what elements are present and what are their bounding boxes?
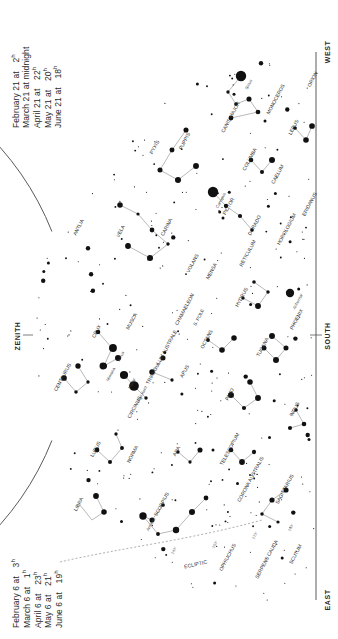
constellation-label: PUPPIS [177,131,191,151]
star-dot [244,374,248,378]
star-dot [288,196,289,197]
constellation-label: SCUTUM [288,543,303,565]
star-dot [197,410,198,411]
star-dot [191,583,192,584]
asterism-star-dot [238,73,244,79]
star-dot [201,411,202,412]
star-dot [154,468,155,469]
star-dot [206,509,207,510]
star-dot [156,213,157,214]
star-dot [107,323,109,325]
star-dot [307,88,308,89]
star-dot [68,232,69,233]
constellation-label: SAGITTARIUS [274,473,295,506]
star-dot [211,390,212,391]
legend-bottom-spacer [54,583,64,592]
legend-top-spacer [32,80,42,89]
asterism-star-dot [283,345,288,350]
star-dot [98,470,100,472]
star-dot [213,582,216,585]
star-dot [307,284,308,285]
star-dot [221,252,222,253]
star-dot [99,318,100,319]
star-dot [311,375,312,376]
asterism-star-dot [226,90,229,93]
star-dot [284,583,285,584]
star-dot [228,373,229,374]
star-dot [37,318,38,319]
star-dot [267,199,268,200]
star-dot [268,95,270,97]
star-dot [229,75,231,77]
star-dot [164,103,165,104]
asterism-star-dot [266,290,269,293]
star-dot [250,512,251,513]
constellation-label: MENSA [204,261,218,280]
compass-south-label: SOUTH [324,322,331,350]
star-dot [221,207,222,208]
star-dot [196,83,199,86]
star-dot [269,464,270,465]
star-dot [172,312,173,313]
constellation-label: MUSCA [124,311,138,330]
constellation-line [178,450,200,462]
constellation-label: NORMA [125,444,139,464]
star-dot [120,520,123,523]
legend-top-date: April 21 at [32,89,42,128]
asterism-star-dot [242,406,246,410]
asterism-star-dot [276,520,279,523]
constellation-line [160,130,196,180]
constellation-line [295,126,312,140]
star-dot [276,249,277,250]
star-dot [228,191,231,194]
star-dot [130,304,132,306]
star-dot [250,267,251,268]
star-dot [195,442,197,444]
legend-bottom-time-unit: h [42,573,48,576]
star-dot [177,443,178,444]
star-dot [148,402,149,403]
asterism-star-dot [255,395,261,401]
asterism-star-dot [193,163,199,169]
asterism-star-dot [252,280,256,284]
asterism-star-dot [125,243,131,249]
ecliptic-label: ECLIPTIC [184,559,208,570]
star-dot [141,539,142,540]
star-dot [158,247,160,249]
star-dot [265,147,266,148]
star-dot [129,478,130,479]
star-dot [42,270,45,273]
star-dot [111,391,112,392]
star-dot [171,464,173,466]
asterism-star-dot [144,396,147,399]
ecliptic-degree-label: 280° [288,523,295,532]
star-dot [259,501,260,502]
star-dot [121,238,123,240]
star-dot [259,61,263,65]
star-dot [98,391,99,392]
star-dot [234,74,235,75]
star-dot [265,231,267,233]
constellation-label: ARA [171,445,181,457]
star-dot [187,339,188,340]
star-dot [256,474,257,475]
star-dot [218,210,219,211]
star-dot [130,474,131,475]
star-dot [70,468,72,470]
star-dot [309,491,310,492]
asterism-star-dot [239,459,245,465]
asterism-star-dot [269,333,275,339]
star-dot [92,193,93,194]
star-dot [212,383,213,384]
constellation-label: RETICULUM [238,239,257,268]
asterism-star-dot [101,509,107,515]
star-dot [196,173,197,174]
legend-top-row: February 21 at 2h [10,47,21,128]
legend-top-time-unit: h [31,67,37,70]
legend-bottom-date: April 6 at [32,593,42,628]
star-dot [45,324,46,325]
star-dot [174,499,176,501]
star-dot [123,478,124,479]
star-dot [47,338,49,340]
star-dot [115,508,116,509]
